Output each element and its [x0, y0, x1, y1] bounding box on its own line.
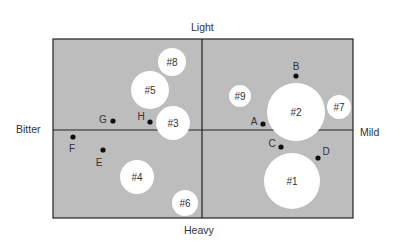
brand-dot	[70, 134, 75, 139]
segment-circle: #5	[131, 71, 169, 109]
brand-dot	[293, 73, 298, 78]
segment-label: #4	[131, 172, 143, 183]
brand-dot	[278, 144, 283, 149]
brand-label: C	[268, 138, 275, 149]
brand-dot	[100, 147, 105, 152]
segment-label: #5	[144, 85, 156, 96]
segment-label: #2	[290, 107, 302, 118]
segment-circle: #3	[156, 106, 190, 140]
segment-circle: #1	[264, 153, 320, 209]
brand-label: F	[69, 143, 75, 154]
brand-dot	[315, 155, 320, 160]
segment-circle: #6	[172, 190, 198, 216]
segment-label: #7	[333, 102, 345, 113]
brand-dot	[147, 119, 152, 124]
segment-label: #9	[234, 91, 246, 102]
brand-dot	[110, 118, 115, 123]
brand-label: B	[293, 61, 300, 72]
brand-label: E	[96, 157, 103, 168]
segment-circle: #8	[158, 48, 186, 76]
segment-circle: #4	[120, 160, 154, 194]
segment-label: #8	[166, 57, 178, 68]
brand-label: D	[322, 146, 329, 157]
segment-label: #1	[286, 176, 298, 187]
brand-label: H	[137, 111, 144, 122]
brand-label: G	[99, 114, 107, 125]
segment-circle: #9	[229, 85, 251, 107]
brand-label: A	[251, 116, 258, 127]
segment-circle: #7	[327, 95, 351, 119]
segment-label: #3	[167, 118, 179, 129]
brand-dot	[260, 121, 265, 126]
segment-label: #6	[179, 198, 191, 209]
perceptual-map: #1#2#3#4#5#6#7#8#9 ABCDEFGH	[0, 0, 403, 244]
segment-circle: #2	[267, 83, 325, 141]
